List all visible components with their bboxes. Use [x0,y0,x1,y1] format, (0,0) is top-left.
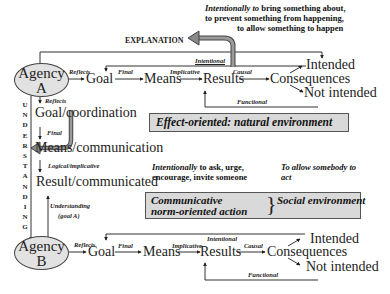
means-communication-node: Means/communication [35,141,163,155]
effect-oriented-label: Effect-oriented: natural environment [156,117,332,129]
comm-understanding-label: Understanding [50,203,90,210]
bottom-not-intended-node: Not intended [306,260,379,274]
understanding-vertical-label: UNDERSTANDING [21,100,29,233]
agency-a-letter: A [15,81,68,96]
top-goal-node: Goal [86,72,113,86]
intention-note-line1: bring something about, [259,3,345,13]
intention-note-lead: Intentionally to [205,3,259,13]
bottom-functional-label: Functional [248,272,278,279]
bottom-final-label: Final [118,243,133,250]
top-functional-label: Functional [237,99,267,106]
comm-reflects-label: Reflects [45,98,66,105]
bottom-intended-node: Intended [310,232,359,246]
explanation-label: EXPLANATION [125,37,184,45]
agency-a-node: Agency A [14,63,69,97]
effect-oriented-box: Effect-oriented: natural environment [149,113,349,132]
top-consequences-node: Consequences [270,72,350,86]
communicative-note-lead: Intentionally [152,162,197,172]
communicative-note-line2: encourage, invite someone [152,172,247,182]
allow-note: To allow somebody to act [281,162,356,182]
communicative-note-line1: to ask, urge, [197,162,244,172]
agency-b-label: Agency [15,239,68,254]
bottom-results-node: Results [200,245,241,259]
top-final-label: Final [118,69,133,76]
bottom-consequences-node: Consequences [267,245,347,259]
brace-icon: } [266,193,277,215]
comm-logical-label: Logical/implicative [48,163,99,170]
bottom-causal-label: Causal [244,243,263,250]
bottom-intentional-label: Intentional [207,236,237,243]
communicative-action-box: Communicative norm-oriented action } Soc… [145,192,361,219]
allow-note-line1: To allow somebody to [281,162,356,172]
communicative-action-label: Communicative norm-oriented action [151,195,247,217]
bottom-means-node: Means [143,245,180,259]
comm-goal-a-label: (goal A) [58,213,80,220]
top-intended-node: Intended [306,58,355,72]
agency-b-node: Agency B [14,236,69,270]
allow-note-line2: act [281,172,356,182]
bottom-goal-node: Goal [88,245,115,259]
intention-note-line2: to prevent something from happening, [205,13,346,23]
top-results-node: Results [203,72,244,86]
social-environment-label: Social environment [277,195,365,206]
intention-note-line3: to allow something to happen [205,23,346,33]
goal-coordination-node: Goal/coordination [35,106,137,120]
top-intentional-label: Intentional [195,58,225,65]
intention-note: Intentionally to bring something about, … [205,3,346,33]
agency-a-label: Agency [15,66,68,81]
agency-b-letter: B [15,254,68,269]
comm-final-label: Final [47,130,62,137]
communicative-note: Intentionally to ask, urge, encourage, i… [152,162,247,182]
top-means-node: Means [144,72,181,86]
top-not-intended-node: Not intended [304,86,377,100]
result-communicated-node: Result/communicated [36,175,158,189]
